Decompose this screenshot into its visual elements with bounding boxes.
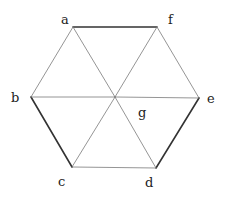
vertex-label-a: a [61, 12, 69, 27]
edge-d-c [72, 167, 156, 168]
hexagon-graph-diagram: afbecdg [0, 0, 225, 197]
edge-e-d [156, 98, 199, 168]
edge-f-g [115, 27, 157, 97]
vertex-label-d: d [145, 175, 153, 190]
vertex-label-e: e [207, 91, 215, 106]
graph-edges [31, 27, 199, 168]
edge-f-e [157, 27, 199, 98]
vertex-label-c: c [58, 174, 65, 189]
vertex-label-g: g [138, 105, 146, 120]
edge-d-g [115, 97, 156, 168]
vertex-label-b: b [11, 90, 19, 105]
edge-c-g [72, 97, 115, 167]
vertex-label-f: f [168, 12, 174, 27]
edge-e-g [115, 97, 199, 98]
edge-c-b [31, 97, 72, 167]
edge-a-g [73, 27, 115, 97]
edge-b-a [31, 27, 73, 97]
